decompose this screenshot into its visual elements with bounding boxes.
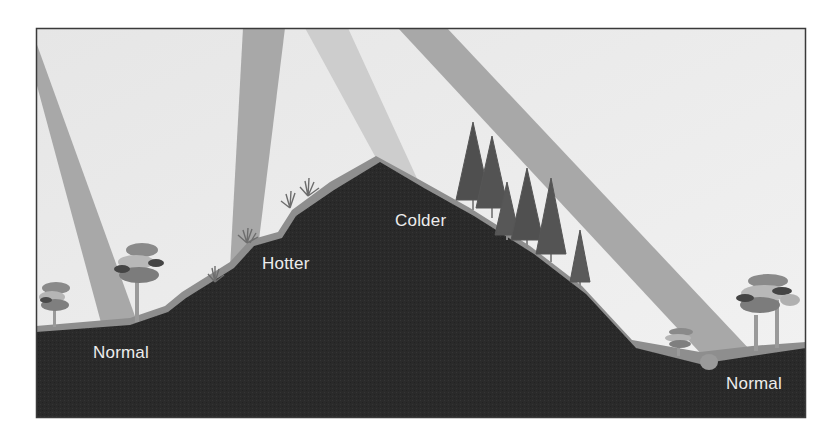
label-normal-right: Normal — [726, 374, 782, 394]
label-normal-left: Normal — [93, 343, 149, 363]
label-hotter: Hotter — [262, 254, 310, 274]
label-colder: Colder — [395, 211, 446, 231]
slope-temperature-diagram: Normal Hotter Colder Normal — [0, 0, 837, 444]
valley-pond — [700, 354, 718, 370]
